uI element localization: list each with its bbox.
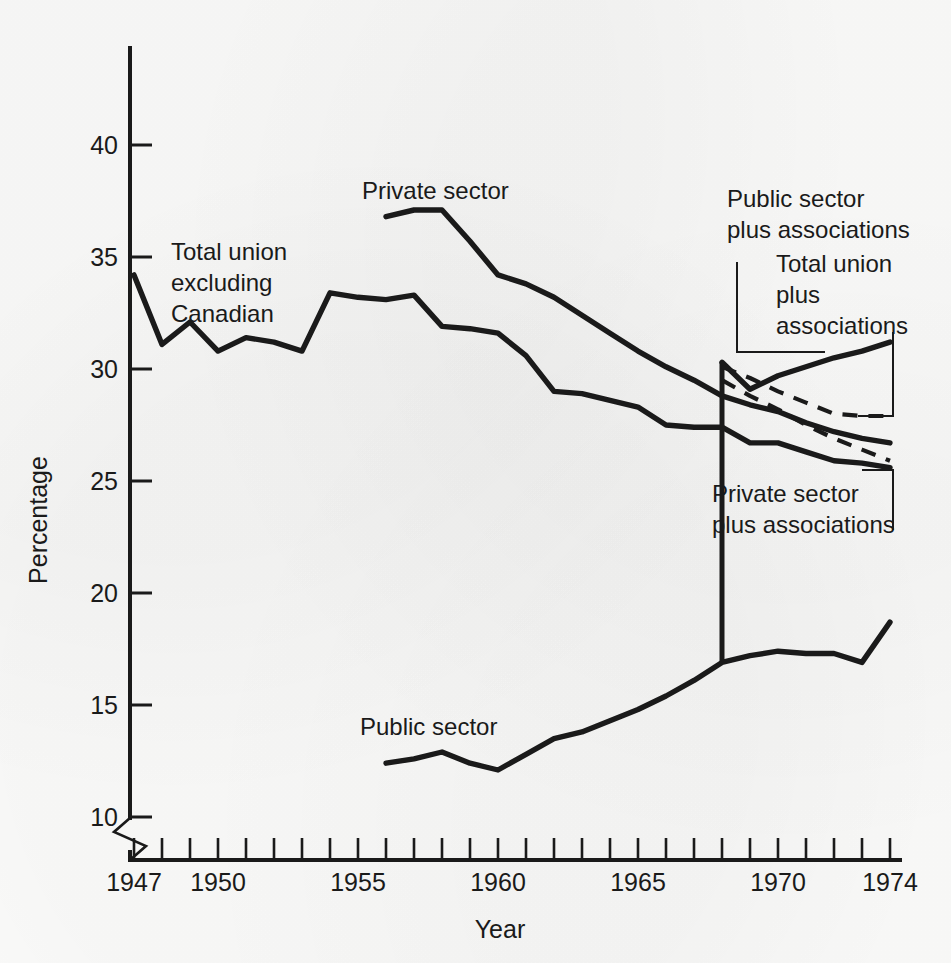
annotation-private-sector-plus-associations-line2: plus associations	[712, 511, 895, 538]
y-ticks-group: 40 35 30 25 20 15 10	[90, 131, 152, 831]
annotation-total-union-plus-associations-line3: associations	[776, 312, 908, 339]
x-ticks-group	[134, 838, 890, 860]
x-tick-label-1947: 1947	[106, 868, 162, 896]
y-tick-label-25: 25	[90, 467, 118, 495]
y-tick-label-40: 40	[90, 131, 118, 159]
annotation-public-sector-plus-associations-line2: plus associations	[727, 216, 910, 243]
annotation-total-union-plus-associations-line1: Total union	[776, 250, 892, 277]
series-public-sector-plus-associations	[722, 342, 890, 389]
y-tick-label-30: 30	[90, 355, 118, 383]
annotation-public-sector: Public sector	[360, 713, 497, 740]
line-chart: 40 35 30 25 20 15 10 Percentage	[0, 0, 951, 963]
axes-group	[114, 48, 900, 860]
x-tick-label-1960: 1960	[470, 868, 526, 896]
figure-canvas: 40 35 30 25 20 15 10 Percentage	[0, 0, 951, 963]
y-tick-label-20: 20	[90, 579, 118, 607]
x-axis-title: Year	[475, 915, 526, 943]
annotation-total-union-plus-associations-line2: plus	[776, 281, 820, 308]
series-total-union-plus-associations	[722, 367, 890, 416]
x-tick-label-1950: 1950	[190, 868, 246, 896]
annotation-total-union-excluding-canadian-line3: Canadian	[171, 300, 274, 327]
annotation-total-union-excluding-canadian-line1: Total union	[171, 238, 287, 265]
series-public-sector	[386, 622, 890, 770]
x-tick-labels-group: 1947 1950 1955 1960 1965 1970 1974	[106, 868, 918, 896]
y-axis-title: Percentage	[24, 456, 52, 584]
annotation-total-union-excluding-canadian-line2: excluding	[171, 269, 272, 296]
x-tick-label-1970: 1970	[750, 868, 806, 896]
y-tick-label-10: 10	[90, 803, 118, 831]
x-tick-label-1965: 1965	[610, 868, 666, 896]
annotation-private-sector-plus-associations-line1: Private sector	[712, 480, 859, 507]
y-tick-label-35: 35	[90, 243, 118, 271]
x-tick-label-1974: 1974	[862, 868, 918, 896]
y-tick-label-15: 15	[90, 691, 118, 719]
x-tick-label-1955: 1955	[330, 868, 386, 896]
annotation-public-sector-plus-associations-line1: Public sector	[727, 185, 864, 212]
annotation-private-sector: Private sector	[362, 177, 509, 204]
